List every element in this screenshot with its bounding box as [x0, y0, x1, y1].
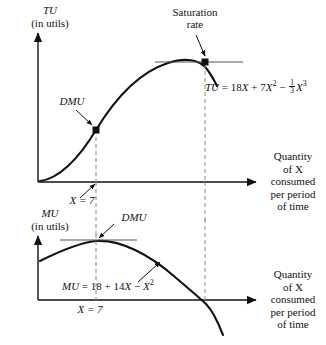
x-equals-7-bottom-label: X = 7 — [68, 303, 112, 316]
mu-x-axis-title: Quantity of X consumed per period of tim… — [262, 268, 324, 331]
saturation-rate-leader — [196, 35, 205, 56]
tu-equation-frac-denominator: 3 — [289, 86, 295, 95]
mu-axis-label-line1: MU — [30, 207, 70, 220]
mu-equation-part-a: = 18 + 14 — [79, 280, 124, 292]
dmu-bottom-leader — [99, 224, 114, 238]
tu-equation-exp3: 3 — [303, 79, 307, 88]
tu-equation-minus: − — [276, 81, 288, 93]
tu-curve — [40, 60, 217, 181]
tu-equation-var3: X — [296, 81, 303, 93]
tu-equation-part-a: = 18 — [219, 81, 242, 93]
tu-inflection-point-marker — [93, 127, 100, 134]
tu-axis-label-line1: TU — [30, 4, 70, 17]
saturation-rate-label-line1: Saturation — [150, 6, 240, 19]
dmu-top-label: DMU — [50, 95, 94, 108]
mu-equation-var2: X — [143, 280, 150, 292]
tu-saturation-point-marker — [202, 59, 209, 66]
dmu-bottom-label: DMU — [112, 211, 156, 224]
tu-axis-label-line2: (in utils) — [16, 17, 84, 30]
mu-equation-exp2: 2 — [150, 278, 154, 287]
mu-axis-label-line2: (in utils) — [16, 220, 84, 233]
tu-equation-part-b: + 7 — [249, 81, 266, 93]
dmu-top-leader — [76, 110, 92, 125]
tu-equation-var1: X — [242, 81, 249, 93]
tu-equation-frac-numerator: 1 — [289, 79, 295, 87]
utility-curves-figure: TU (in utils) Saturation rate DMU TU = 1… — [0, 0, 326, 345]
tu-x-axis-title: Quantity of X consumed per period of tim… — [262, 150, 324, 213]
saturation-rate-label-line2: rate — [150, 18, 240, 31]
x-equals-7-top-label: X = 7 — [60, 194, 104, 207]
tu-chart-group — [38, 33, 256, 198]
mu-equation-lhs: MU — [62, 280, 79, 292]
tu-equation-lhs: TU — [205, 81, 219, 93]
mu-equation-minus: − — [131, 280, 143, 292]
tu-equation-fraction: 13 — [289, 79, 295, 95]
